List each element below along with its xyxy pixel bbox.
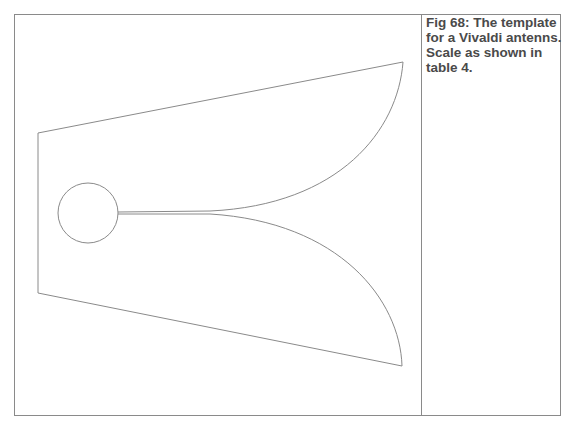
antenna-lower-flare-curve [118, 214, 402, 366]
antenna-outer-edge [38, 62, 403, 366]
feed-cavity-circle [58, 183, 118, 243]
caption-line: table 4. [426, 60, 560, 75]
figure-page: Fig 68: The template for a Vivaldi anten… [0, 0, 578, 428]
caption-line: for a Vivaldi antenns. [426, 30, 560, 45]
caption-line: Fig 68: The template [426, 15, 560, 30]
antenna-upper-flare-curve [118, 62, 403, 212]
caption-line: Scale as shown in [426, 45, 560, 60]
figure-caption: Fig 68: The template for a Vivaldi anten… [426, 15, 560, 75]
